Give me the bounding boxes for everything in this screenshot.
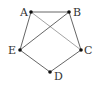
vertex-A [29, 10, 33, 14]
edge-C-D [50, 50, 81, 72]
vertex-D [48, 70, 52, 74]
vertex-label-A: A [19, 6, 29, 19]
graph-diagram: ABCDE [0, 0, 98, 86]
vertex-B [67, 10, 71, 14]
vertex-label-B: B [73, 6, 81, 19]
edge-D-E [20, 50, 50, 72]
vertex-label-E: E [8, 44, 16, 57]
vertex-C [79, 48, 83, 52]
vertex-label-D: D [54, 70, 63, 83]
graph-canvas: ABCDE [0, 0, 98, 86]
vertex-label-C: C [84, 44, 92, 57]
vertex-E [18, 48, 22, 52]
